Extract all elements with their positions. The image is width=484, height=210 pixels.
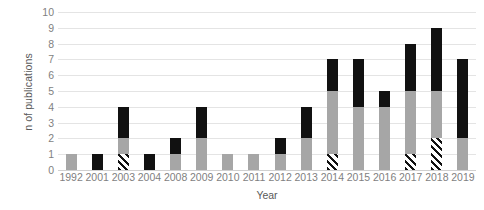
bar-segment-hatched — [327, 154, 338, 170]
y-tick-label: 4 — [24, 102, 54, 113]
bar-segment-black — [353, 59, 364, 106]
bar-2004 — [144, 154, 155, 170]
y-tick-label: 0 — [24, 165, 54, 176]
bar-segment-gray — [301, 138, 312, 170]
bar-segment-hatched — [431, 138, 442, 170]
plot-area — [58, 12, 476, 170]
y-tick-label: 2 — [24, 133, 54, 144]
bar-2018 — [431, 28, 442, 170]
bar-segment-gray — [66, 154, 77, 170]
bar-2012 — [275, 138, 286, 170]
bar-2015 — [353, 59, 364, 170]
bar-2001 — [92, 154, 103, 170]
bar-segment-black — [405, 44, 416, 91]
bar-2003 — [118, 107, 129, 170]
bar-segment-gray — [379, 107, 390, 170]
bar-segment-gray — [196, 138, 207, 170]
bar-segment-black — [457, 59, 468, 138]
bar-segment-black — [431, 28, 442, 91]
bar-2011 — [248, 154, 259, 170]
x-axis-title: Year — [58, 189, 476, 201]
bar-segment-black — [379, 91, 390, 107]
bar-2017 — [405, 44, 416, 170]
bar-1992 — [66, 154, 77, 170]
bar-2010 — [222, 154, 233, 170]
x-tick-label: 2019 — [446, 171, 480, 184]
bar-2009 — [196, 107, 207, 170]
bar-segment-black — [170, 138, 181, 154]
bar-segment-gray — [405, 91, 416, 154]
bar-segment-gray — [353, 107, 364, 170]
y-tick-label: 10 — [24, 7, 54, 18]
bar-segment-gray — [327, 91, 338, 154]
x-axis-tick-labels: 1992200120032004200820092010201120122013… — [58, 171, 476, 189]
bar-2008 — [170, 138, 181, 170]
bar-segment-black — [327, 59, 338, 91]
bar-segment-black — [301, 107, 312, 139]
publications-by-year-bar-chart: n of publications 012345678910 199220012… — [0, 0, 484, 210]
y-tick-label: 3 — [24, 117, 54, 128]
bar-segment-black — [275, 138, 286, 154]
y-tick-label: 1 — [24, 149, 54, 160]
y-tick-label: 6 — [24, 70, 54, 81]
bar-segment-gray — [275, 154, 286, 170]
bar-segment-black — [118, 107, 129, 139]
y-tick-label: 7 — [24, 54, 54, 65]
bar-2016 — [379, 91, 390, 170]
bar-segment-black — [144, 154, 155, 170]
bar-segment-black — [196, 107, 207, 139]
y-tick-label: 9 — [24, 23, 54, 34]
y-tick-label: 5 — [24, 86, 54, 97]
bar-segment-hatched — [118, 154, 129, 170]
bar-2019 — [457, 59, 468, 170]
bar-segment-gray — [222, 154, 233, 170]
bar-segment-gray — [431, 91, 442, 138]
bar-2014 — [327, 59, 338, 170]
bar-segment-gray — [170, 154, 181, 170]
y-axis-tick-labels: 012345678910 — [24, 0, 54, 210]
bar-segment-hatched — [405, 154, 416, 170]
bar-2013 — [301, 107, 312, 170]
bar-series-group — [58, 12, 476, 170]
y-tick-label: 8 — [24, 38, 54, 49]
bar-segment-gray — [248, 154, 259, 170]
bar-segment-black — [92, 154, 103, 170]
bar-segment-gray — [118, 138, 129, 154]
bar-segment-gray — [457, 138, 468, 170]
